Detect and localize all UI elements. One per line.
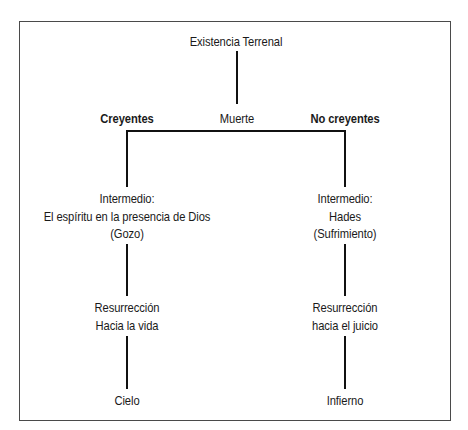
intermediate-desc: Hades (314, 208, 377, 226)
connector-left-destination (126, 336, 128, 389)
resurrection-title: Resurrección (312, 299, 378, 317)
node-root: Existencia Terrenal (190, 33, 283, 51)
node-right-intermediate: Intermedio: Hades (Sufrimiento) (314, 190, 377, 243)
intermediate-title: Intermedio: (44, 190, 211, 208)
connector-left-resurrection (126, 244, 128, 296)
connector-root-death (236, 51, 238, 104)
intermediate-state: (Sufrimiento) (314, 225, 377, 243)
node-hell: Infierno (327, 392, 364, 410)
node-heaven: Cielo (114, 392, 139, 410)
connector-right-resurrection (344, 244, 346, 296)
resurrection-title: Resurrección (95, 299, 160, 317)
node-death: Muerte (220, 110, 254, 128)
connector-right-destination (344, 336, 346, 389)
connector-split (126, 130, 346, 132)
node-left-resurrection: Resurrección Hacia la vida (95, 299, 160, 334)
branch-heading-believers: Creyentes (100, 110, 153, 128)
intermediate-state: (Gozo) (44, 225, 211, 243)
intermediate-title: Intermedio: (314, 190, 377, 208)
intermediate-desc: El espíritu en la presencia de Dios (44, 208, 211, 226)
connector-right-intermediate (344, 130, 346, 187)
connector-left-intermediate (126, 130, 128, 187)
resurrection-desc: hacia el juicio (312, 317, 378, 335)
resurrection-desc: Hacia la vida (95, 317, 160, 335)
branch-heading-nonbelievers: No creyentes (310, 110, 379, 128)
node-right-resurrection: Resurrección hacia el juicio (312, 299, 378, 334)
node-left-intermediate: Intermedio: El espíritu en la presencia … (44, 190, 211, 243)
